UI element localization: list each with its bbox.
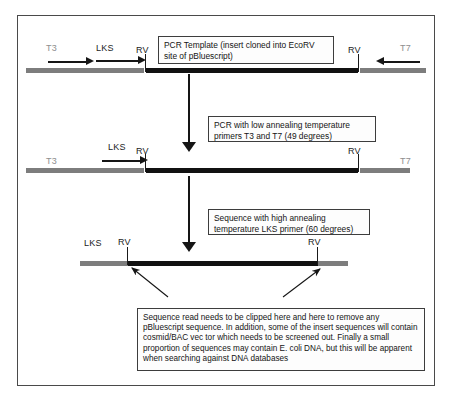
stage1-vector-arm-left [26, 68, 144, 73]
stage3-label-rv-left: RV [118, 237, 131, 247]
stage3-insert-segment [128, 261, 318, 266]
stage2-lks-primer-arrow [102, 156, 148, 165]
stage1-vector-arm-right [360, 68, 426, 73]
stage2-rv-tick-right [358, 154, 359, 172]
flow-arrow-pcr [182, 74, 196, 152]
stage2-label-t7: T7 [400, 156, 411, 166]
stage2-label-t3: T3 [46, 156, 57, 166]
stage1-rv-tick-right [358, 54, 359, 72]
stage1-label-t7: T7 [400, 43, 411, 53]
stage1-t7-primer-arrow [376, 57, 420, 66]
stage1-rv-tick-left [145, 54, 146, 72]
stage1-lks-primer-arrow [96, 56, 146, 65]
pcr-step-box: PCR with low annealing temperature prime… [208, 116, 376, 142]
leader-to-right-rv [283, 269, 320, 297]
stage2-insert-segment [146, 168, 358, 173]
stage3-rv-tick-right [317, 247, 318, 265]
stage1-insert-segment [146, 68, 358, 73]
clipping-note-box: Sequence read needs to be clipped here a… [137, 308, 425, 371]
stage3-label-rv-right: RV [308, 237, 321, 247]
sequencing-step-box: Sequence with high annealing temperature… [208, 209, 370, 235]
stage2-label-rv-left: RV [136, 146, 149, 156]
stage1-label-lks: LKS [96, 43, 114, 53]
stage2-vector-arm-right [360, 168, 410, 173]
stage1-label-rv-left: RV [136, 45, 149, 55]
stage2-label-lks: LKS [108, 142, 126, 152]
stage1-label-t3: T3 [46, 43, 57, 53]
stage2-vector-arm-left [26, 168, 144, 173]
stage3-vector-arm-left [80, 261, 128, 266]
diagram-frame: PCR Template (insert cloned into EcoRV s… [17, 15, 435, 386]
flow-arrow-sequence [182, 176, 196, 252]
stage1-t3-primer-arrow [48, 57, 94, 66]
stage3-label-lks: LKS [84, 238, 102, 248]
stage3-vector-arm-right [318, 261, 348, 266]
stage3-rv-tick-left [127, 247, 128, 265]
pcr-template-callout: PCR Template (insert cloned into EcoRV s… [158, 36, 334, 64]
stage2-rv-tick-left [145, 154, 146, 172]
leader-to-left-rv [132, 268, 168, 297]
